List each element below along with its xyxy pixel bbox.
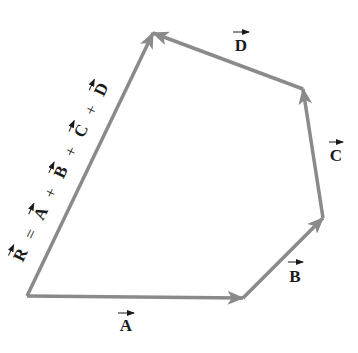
vector-c-arrow bbox=[303, 89, 323, 218]
vector-d-arrow bbox=[153, 33, 303, 89]
label-d: D bbox=[233, 32, 249, 55]
equation-term-r: R bbox=[9, 244, 32, 264]
label-c-text: C bbox=[330, 146, 342, 165]
equation-term-b: B bbox=[50, 163, 72, 182]
resultant-r-arrow bbox=[27, 33, 153, 296]
vector-b-arrow bbox=[243, 218, 323, 298]
resultant-equation: R = A + B + C + D bbox=[8, 79, 112, 264]
equation-plus: + bbox=[80, 102, 101, 119]
vector-diagram: A B C D R = A + B + bbox=[0, 0, 358, 353]
label-d-text: D bbox=[235, 36, 247, 55]
equation-term-d: D bbox=[90, 80, 112, 99]
equation-plus: + bbox=[40, 184, 61, 201]
equation-term-a: A bbox=[29, 203, 52, 223]
label-c: C bbox=[329, 142, 343, 165]
vector-a-arrow bbox=[27, 296, 243, 298]
label-b-text: B bbox=[289, 267, 300, 286]
equation-plus: + bbox=[60, 143, 81, 160]
label-b: B bbox=[288, 262, 303, 286]
equation-term-c: C bbox=[70, 121, 92, 140]
label-a-text: A bbox=[120, 316, 133, 335]
equation-equals: = bbox=[20, 226, 41, 243]
label-a: A bbox=[118, 313, 134, 335]
